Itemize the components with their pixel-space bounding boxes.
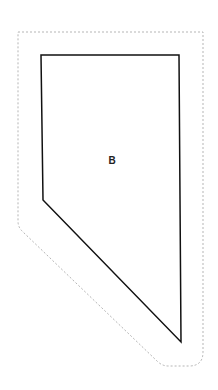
region-b-shape[interactable]	[41, 55, 181, 342]
outer-offset-outline	[18, 32, 203, 366]
diagram-canvas	[0, 0, 218, 390]
region-label: B	[108, 155, 115, 166]
